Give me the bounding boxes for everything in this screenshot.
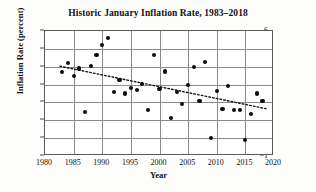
- plot-area: [44, 30, 273, 155]
- trend-line: [45, 31, 274, 156]
- y-axis-label: Inflation Rate (percent): [15, 0, 25, 121]
- chart-title: Historic January Inflation Rate, 1983–20…: [0, 8, 316, 18]
- x-axis-label: Year: [44, 170, 273, 180]
- x-tick-label: 2020: [256, 158, 290, 167]
- inflation-scatter-chart: Historic January Inflation Rate, 1983–20…: [0, 0, 316, 192]
